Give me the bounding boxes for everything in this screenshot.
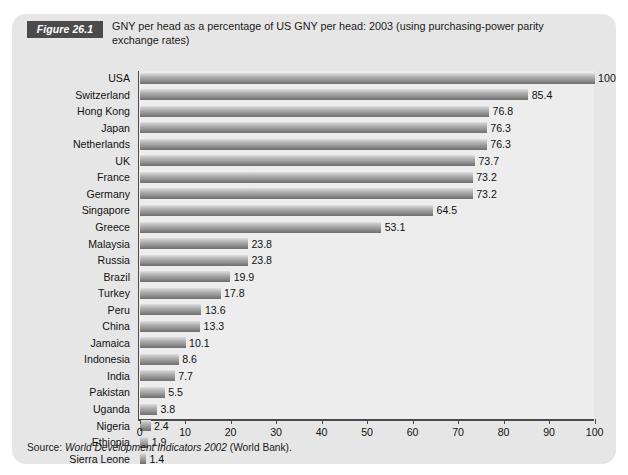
x-tick-label: 40 (302, 426, 342, 438)
bar (140, 205, 433, 216)
bar (140, 172, 473, 183)
bar (140, 304, 202, 315)
bar-row: Hong Kong76.8 (12, 103, 616, 120)
bar-value-label: 19.9 (234, 270, 255, 285)
bar (140, 453, 146, 464)
bar-value-label: 53.1 (385, 220, 406, 235)
x-tick-label: 80 (484, 426, 524, 438)
bar (140, 238, 248, 249)
x-tick-label: 70 (438, 426, 478, 438)
bar-value-label: 73.2 (476, 170, 497, 185)
chart-area: USA100Switzerland85.4Hong Kong76.8Japan7… (12, 62, 616, 424)
x-tick-mark (413, 419, 414, 424)
x-tick-label: 0 (120, 426, 160, 438)
source-suffix: (World Bank). (227, 442, 292, 453)
bar-row: Peru13.6 (12, 302, 616, 319)
bar (140, 271, 231, 282)
bar-row: China13.3 (12, 318, 616, 335)
x-tick-label: 30 (256, 426, 296, 438)
bar (140, 155, 475, 166)
figure-header: Figure 26.1 GNY per head as a percentage… (12, 14, 616, 62)
bar-row: Singapore64.5 (12, 202, 616, 219)
bar (140, 321, 201, 332)
source-prefix: Source: (27, 442, 65, 453)
category-label: Hong Kong (12, 103, 130, 120)
bar-value-label: 1.4 (149, 452, 164, 467)
category-label: Jamaica (12, 335, 130, 352)
category-label: Russia (12, 252, 130, 269)
bar-value-label: 3.8 (160, 402, 175, 417)
x-tick-mark (595, 419, 596, 424)
bar-value-label: 76.3 (490, 121, 511, 136)
bar (140, 404, 157, 415)
x-tick-mark (504, 419, 505, 424)
bar-value-label: 10.1 (189, 336, 210, 351)
bar-value-label: 7.7 (178, 369, 193, 384)
x-tick-mark (140, 419, 141, 424)
bar (140, 337, 186, 348)
bar-value-label: 5.5 (168, 385, 183, 400)
bar-row: Japan76.3 (12, 120, 616, 137)
category-label: Indonesia (12, 351, 130, 368)
category-label: Turkey (12, 285, 130, 302)
x-tick-label: 90 (529, 426, 569, 438)
bar-value-label: 85.4 (532, 88, 553, 103)
category-label: Sierra Leone (12, 451, 130, 468)
bar (140, 106, 489, 117)
figure-panel: Figure 26.1 GNY per head as a percentage… (12, 14, 616, 464)
bar-row: Russia23.8 (12, 252, 616, 269)
category-label: Brazil (12, 269, 130, 286)
source-publication: World Development Indicators 2002 (65, 442, 227, 453)
bar-row: Indonesia8.6 (12, 351, 616, 368)
bar-row: Turkey17.8 (12, 285, 616, 302)
category-label: Malaysia (12, 236, 130, 253)
x-tick-label: 100 (575, 426, 615, 438)
category-label: Netherlands (12, 136, 130, 153)
bar (140, 387, 165, 398)
figure-title: GNY per head as a percentage of US GNY p… (112, 19, 592, 48)
bar-value-label: 73.2 (476, 187, 497, 202)
bar-row: Netherlands76.3 (12, 136, 616, 153)
category-label: UK (12, 153, 130, 170)
category-label: India (12, 368, 130, 385)
bar-value-label: 13.3 (204, 319, 225, 334)
bar-value-label: 76.3 (490, 137, 511, 152)
bar (140, 89, 529, 100)
x-tick-label: 20 (211, 426, 251, 438)
bar-row: UK73.7 (12, 153, 616, 170)
x-tick-label: 50 (347, 426, 387, 438)
figure-source: Source: World Development Indicators 200… (27, 442, 292, 453)
bar-row: Germany73.2 (12, 186, 616, 203)
x-tick-mark (231, 419, 232, 424)
bar-row: France73.2 (12, 169, 616, 186)
category-label: USA (12, 70, 130, 87)
bar-value-label: 8.6 (182, 352, 197, 367)
bar-row: Jamaica10.1 (12, 335, 616, 352)
bar-row: Brazil19.9 (12, 269, 616, 286)
x-tick-mark (549, 419, 550, 424)
category-label: Japan (12, 120, 130, 137)
bar-value-label: 17.8 (224, 286, 245, 301)
bar-row: Switzerland85.4 (12, 87, 616, 104)
bar (140, 288, 221, 299)
bar-value-label: 64.5 (437, 203, 458, 218)
bar-value-label: 100 (598, 71, 616, 86)
category-label: Uganda (12, 401, 130, 418)
bar-row: Uganda3.8 (12, 401, 616, 418)
x-tick-mark (458, 419, 459, 424)
bar-row: Sierra Leone1.4 (12, 451, 616, 468)
category-label: France (12, 169, 130, 186)
bar-row: Malaysia23.8 (12, 236, 616, 253)
bar-value-label: 76.8 (493, 104, 514, 119)
x-tick-label: 10 (165, 426, 205, 438)
bar (140, 188, 473, 199)
bar-row: India7.7 (12, 368, 616, 385)
category-label: Switzerland (12, 87, 130, 104)
bar-value-label: 23.8 (251, 237, 272, 252)
category-label: Germany (12, 186, 130, 203)
bar (140, 255, 248, 266)
bar (140, 122, 487, 133)
bar (140, 139, 487, 150)
bar-value-label: 23.8 (251, 253, 272, 268)
category-label: Pakistan (12, 384, 130, 401)
